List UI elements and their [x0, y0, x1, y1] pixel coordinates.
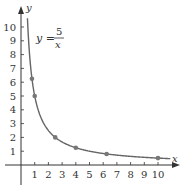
- x-tick-label: 4: [73, 169, 79, 180]
- y-tick-label: 7: [10, 63, 16, 74]
- data-point: [30, 76, 35, 81]
- data-points: [30, 76, 161, 160]
- y-tick-label: 9: [10, 35, 16, 46]
- y-tick-label: 1: [10, 146, 16, 157]
- y-tick-label: 3: [10, 118, 16, 129]
- y-axis-arrow-icon: [18, 6, 24, 14]
- x-tick-label: 5: [86, 169, 92, 180]
- x-axis-label: x: [172, 153, 178, 164]
- x-tick-label: 6: [100, 169, 106, 180]
- data-point: [32, 94, 37, 99]
- chart-canvas: 1234567891012345678910 y = 5 x x y: [0, 0, 185, 193]
- data-point: [156, 156, 161, 161]
- equation-lhs: y =: [35, 32, 55, 45]
- x-tick-label: 2: [45, 169, 51, 180]
- equation-label: y = 5 x: [35, 26, 64, 50]
- x-tick-label: 10: [152, 169, 165, 180]
- data-point: [104, 152, 109, 157]
- y-axis-label: y: [25, 2, 32, 13]
- y-tick-label: 8: [10, 49, 16, 60]
- y-tick-label: 4: [10, 104, 16, 115]
- equation-denominator: x: [55, 39, 61, 50]
- y-tick-label: 2: [10, 132, 16, 143]
- y-tick-label: 6: [10, 77, 16, 88]
- ticks: 1234567891012345678910: [3, 22, 164, 181]
- x-tick-label: 1: [32, 169, 38, 180]
- y-tick-label: 10: [3, 22, 16, 33]
- data-point: [74, 145, 79, 150]
- x-tick-label: 3: [59, 169, 65, 180]
- x-tick-label: 8: [127, 169, 133, 180]
- x-tick-label: 9: [141, 169, 147, 180]
- y-tick-label: 5: [10, 91, 16, 102]
- x-tick-label: 7: [114, 169, 120, 180]
- equation-numerator: 5: [56, 26, 62, 37]
- data-point: [53, 135, 58, 140]
